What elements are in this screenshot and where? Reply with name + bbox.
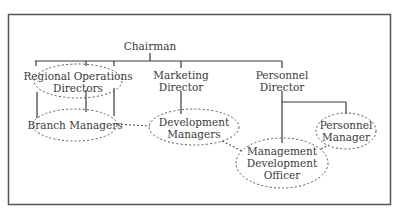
node-personnel-director: Personnel Director	[256, 69, 309, 93]
node-branch-managers: Branch Managers	[27, 119, 122, 131]
org-chart: Chairman Regional Operations Directors M…	[0, 0, 398, 214]
org-chart-graphics	[0, 0, 398, 214]
node-marketing-director: Marketing Director	[153, 69, 209, 93]
node-personnel-manager: Personnel Manager	[320, 119, 373, 143]
node-management-development-officer: Management Development Officer	[247, 145, 317, 181]
node-development-managers: Development Managers	[159, 116, 229, 140]
node-chairman: Chairman	[124, 40, 176, 52]
node-regional-operations-directors: Regional Operations Directors	[23, 70, 132, 94]
